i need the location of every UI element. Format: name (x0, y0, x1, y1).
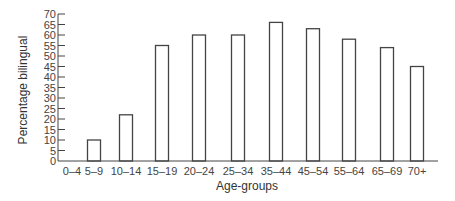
y-tick-label: 10 (44, 134, 56, 146)
x-axis-tick-labels: 0–45–910–1415–1920–2425–3435–4445–5455–6… (63, 165, 427, 177)
x-tick-label: 10–14 (111, 165, 142, 177)
bar-20-24 (193, 35, 206, 161)
bar-25-34 (232, 35, 245, 161)
bar-15-19 (156, 46, 169, 162)
y-axis-label: Percentage bilingual (16, 36, 30, 145)
y-tick-label: 25 (44, 103, 56, 115)
x-tick-label: 25–34 (223, 165, 254, 177)
y-tick-label: 0 (50, 155, 56, 167)
y-tick-label: 65 (44, 19, 56, 31)
y-tick-label: 5 (50, 145, 56, 157)
y-tick-label: 60 (44, 29, 56, 41)
y-tick-label: 45 (44, 61, 56, 73)
y-tick-label: 70 (44, 8, 56, 20)
x-tick-label: 70+ (408, 165, 427, 177)
x-tick-label: 65–69 (372, 165, 403, 177)
x-tick-label: 15–19 (147, 165, 178, 177)
bar-5-9 (88, 140, 101, 161)
bar-35-44 (270, 22, 283, 161)
bars (88, 22, 424, 161)
bar-55-64 (343, 39, 356, 161)
y-axis-ticks: 0510152025303540455055606570 (44, 8, 65, 167)
y-tick-label: 30 (44, 92, 56, 104)
x-axis-label: Age-groups (216, 179, 278, 193)
x-tick-label: 5–9 (85, 165, 103, 177)
bar-70+ (411, 67, 424, 162)
y-tick-label: 15 (44, 124, 56, 136)
y-tick-label: 35 (44, 82, 56, 94)
y-tick-label: 55 (44, 40, 56, 52)
x-tick-label: 35–44 (261, 165, 292, 177)
bar-chart: 0510152025303540455055606570 0–45–910–14… (0, 0, 455, 201)
bar-10-14 (120, 115, 133, 161)
y-tick-label: 20 (44, 113, 56, 125)
bar-45-54 (307, 29, 320, 161)
y-tick-label: 40 (44, 71, 56, 83)
x-tick-label: 20–24 (184, 165, 215, 177)
y-tick-label: 50 (44, 50, 56, 62)
bar-65-69 (381, 48, 394, 161)
x-tick-label: 0–4 (63, 165, 81, 177)
x-tick-label: 55–64 (334, 165, 365, 177)
x-tick-label: 45–54 (298, 165, 329, 177)
